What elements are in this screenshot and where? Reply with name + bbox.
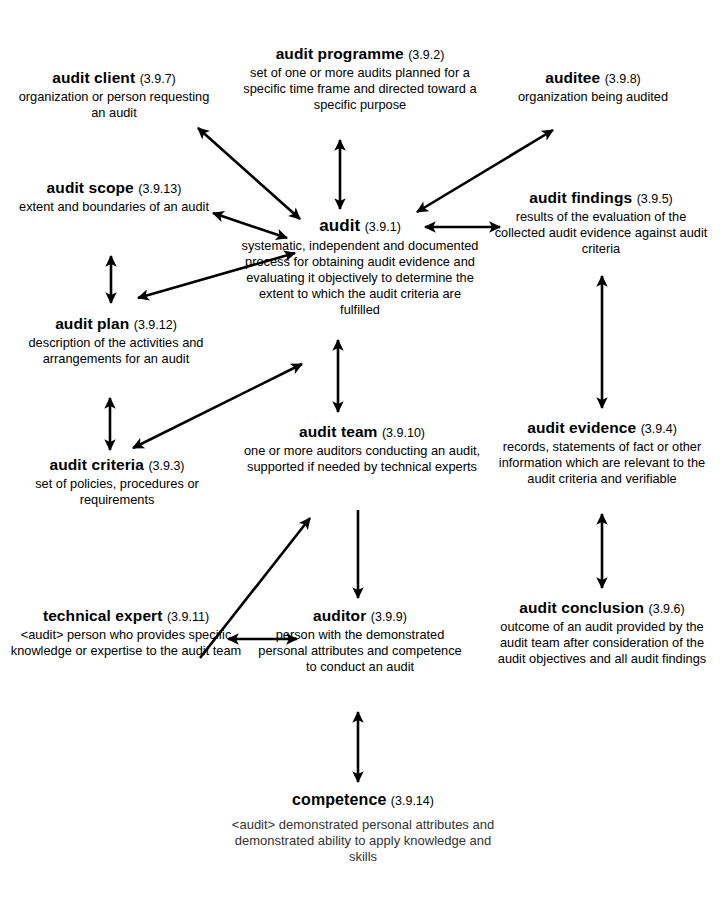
node-audit-criteria[interactable]: audit criteria (3.9.3) set of policies, … bbox=[14, 455, 220, 508]
node-audit-client-heading: audit client (3.9.7) bbox=[14, 68, 214, 88]
node-auditor-ref: (3.9.9) bbox=[371, 610, 407, 624]
node-audit-team-definition: one or more auditors conducting an audit… bbox=[240, 443, 484, 475]
node-competence-term: competence bbox=[292, 791, 386, 808]
node-audit-scope-ref: (3.9.13) bbox=[138, 182, 181, 196]
node-audit-team[interactable]: audit team (3.9.10) one or more auditors… bbox=[240, 422, 484, 475]
node-audit-plan-definition: description of the activities and arrang… bbox=[10, 335, 222, 367]
diagram-canvas: audit client (3.9.7) organization or per… bbox=[0, 0, 720, 912]
node-audit-conclusion-term: audit conclusion bbox=[519, 599, 644, 616]
node-audit-scope-definition: extent and boundaries of an audit bbox=[8, 199, 220, 215]
node-competence[interactable]: competence (3.9.14) <audit> demonstrated… bbox=[222, 790, 504, 866]
node-technical-expert-definition: <audit> person who provides specific kno… bbox=[10, 627, 242, 659]
node-audit-plan-term: audit plan bbox=[55, 315, 129, 332]
node-audit-findings-term: audit findings bbox=[529, 189, 632, 206]
node-auditor[interactable]: auditor (3.9.9) person with the demonstr… bbox=[254, 606, 466, 675]
node-audit-plan[interactable]: audit plan (3.9.12) description of the a… bbox=[10, 314, 222, 367]
node-audit-client-ref: (3.9.7) bbox=[140, 72, 176, 86]
node-audit-findings-definition: results of the evaluation of the collect… bbox=[494, 209, 708, 257]
node-audit-plan-heading: audit plan (3.9.12) bbox=[10, 314, 222, 334]
node-audit-findings-heading: audit findings (3.9.5) bbox=[494, 188, 708, 208]
node-audit-programme-ref: (3.9.2) bbox=[408, 48, 444, 62]
node-technical-expert[interactable]: technical expert (3.9.11) <audit> person… bbox=[10, 606, 242, 659]
node-auditee[interactable]: auditee (3.9.8) organization being audit… bbox=[494, 68, 692, 105]
node-audit-conclusion-heading: audit conclusion (3.9.6) bbox=[492, 598, 712, 618]
node-auditee-term: auditee bbox=[545, 69, 600, 86]
node-audit-ref: (3.9.1) bbox=[365, 220, 401, 234]
node-audit-term: audit bbox=[319, 216, 360, 235]
node-audit-programme-heading: audit programme (3.9.2) bbox=[240, 44, 480, 64]
node-audit-client-term: audit client bbox=[52, 69, 135, 86]
node-technical-expert-heading: technical expert (3.9.11) bbox=[10, 606, 242, 626]
node-audit-conclusion-ref: (3.9.6) bbox=[649, 602, 685, 616]
node-audit-team-term: audit team bbox=[299, 423, 378, 440]
node-audit-criteria-term: audit criteria bbox=[49, 456, 143, 473]
node-audit-evidence-ref: (3.9.4) bbox=[641, 422, 677, 436]
node-audit-conclusion[interactable]: audit conclusion (3.9.6) outcome of an a… bbox=[492, 598, 712, 667]
node-audit-team-heading: audit team (3.9.10) bbox=[240, 422, 484, 442]
node-audit-programme-definition: set of one or more audits planned for a … bbox=[240, 65, 480, 113]
node-audit-evidence-term: audit evidence bbox=[527, 419, 636, 436]
node-audit-criteria-heading: audit criteria (3.9.3) bbox=[14, 455, 220, 475]
node-audit-evidence-definition: records, statements of fact or other inf… bbox=[492, 439, 712, 487]
node-audit-definition: systematic, independent and documented p… bbox=[238, 238, 482, 319]
node-audit-scope-heading: audit scope (3.9.13) bbox=[8, 178, 220, 198]
node-audit-client[interactable]: audit client (3.9.7) organization or per… bbox=[14, 68, 214, 121]
node-competence-ref: (3.9.14) bbox=[391, 794, 434, 808]
node-audit[interactable]: audit (3.9.1) systematic, independent an… bbox=[238, 216, 482, 318]
node-audit-criteria-ref: (3.9.3) bbox=[148, 459, 184, 473]
node-audit-heading: audit (3.9.1) bbox=[238, 216, 482, 237]
node-auditee-definition: organization being audited bbox=[494, 89, 692, 105]
node-competence-definition: <audit> demonstrated personal attributes… bbox=[222, 817, 504, 866]
node-audit-criteria-definition: set of policies, procedures or requireme… bbox=[14, 476, 220, 508]
node-auditor-definition: person with the demonstrated personal at… bbox=[254, 627, 466, 675]
node-audit-plan-ref: (3.9.12) bbox=[134, 318, 177, 332]
node-technical-expert-ref: (3.9.11) bbox=[167, 610, 209, 624]
node-auditee-ref: (3.9.8) bbox=[605, 72, 641, 86]
node-auditor-heading: auditor (3.9.9) bbox=[254, 606, 466, 626]
node-competence-heading: competence (3.9.14) bbox=[222, 790, 504, 810]
node-technical-expert-term: technical expert bbox=[43, 607, 163, 624]
node-audit-evidence-heading: audit evidence (3.9.4) bbox=[492, 418, 712, 438]
node-audit-findings[interactable]: audit findings (3.9.5) results of the ev… bbox=[494, 188, 708, 257]
node-audit-client-definition: organization or person requesting an aud… bbox=[14, 89, 214, 121]
node-audit-programme[interactable]: audit programme (3.9.2) set of one or mo… bbox=[240, 44, 480, 113]
node-audit-team-ref: (3.9.10) bbox=[382, 426, 425, 440]
node-auditee-heading: auditee (3.9.8) bbox=[494, 68, 692, 88]
node-audit-scope-term: audit scope bbox=[47, 179, 134, 196]
node-audit-programme-term: audit programme bbox=[276, 45, 404, 62]
node-audit-evidence[interactable]: audit evidence (3.9.4) records, statemen… bbox=[492, 418, 712, 487]
node-audit-scope[interactable]: audit scope (3.9.13) extent and boundari… bbox=[8, 178, 220, 215]
node-audit-conclusion-definition: outcome of an audit provided by the audi… bbox=[492, 619, 712, 667]
node-auditor-term: auditor bbox=[313, 607, 366, 624]
node-audit-findings-ref: (3.9.5) bbox=[637, 192, 673, 206]
